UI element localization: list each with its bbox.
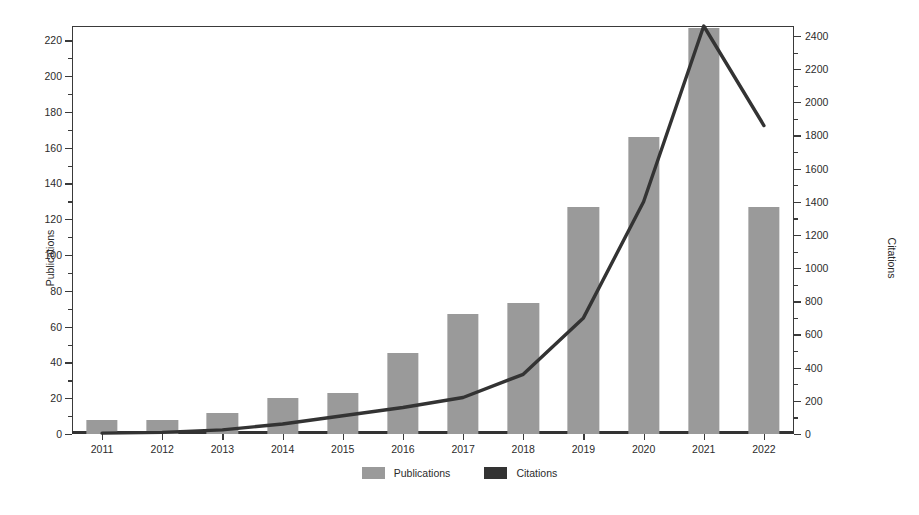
y-tick-label-right: 2400: [805, 31, 828, 42]
y-tick-right: [794, 135, 801, 136]
y-minor-tick-right: [794, 119, 798, 120]
y-tick-label-right: 1400: [805, 197, 828, 208]
y-tick-left: [65, 183, 72, 184]
line-series-citations: [72, 26, 794, 434]
y-tick-left: [65, 219, 72, 220]
bar: [86, 420, 117, 434]
y-tick-left: [65, 291, 72, 292]
x-tick-label: 2015: [331, 443, 354, 455]
y-tick-label-left: 40: [50, 357, 62, 368]
y-minor-tick-right: [794, 185, 798, 186]
y-minor-tick-left: [68, 380, 72, 381]
y-tick-label-left: 140: [44, 178, 62, 189]
x-tick: [222, 434, 223, 440]
y-tick-right: [794, 235, 801, 236]
y-tick-label-left: 20: [50, 393, 62, 404]
y-tick-label-left: 200: [44, 71, 62, 82]
legend-label: Citations: [516, 467, 557, 479]
y-minor-tick-right: [794, 351, 798, 352]
y-tick-label-right: 0: [805, 429, 811, 440]
y-axis-title-right: Citations: [887, 237, 899, 278]
x-tick: [583, 434, 584, 440]
legend-swatch-icon: [362, 467, 385, 479]
y-tick-label-right: 200: [805, 396, 823, 407]
y-minor-tick-right: [794, 86, 798, 87]
x-tick-label: 2018: [512, 443, 535, 455]
legend-entry[interactable]: Citations: [484, 467, 557, 479]
y-tick-right: [794, 202, 801, 203]
y-tick-label-right: 1200: [805, 230, 828, 241]
x-tick-label: 2016: [391, 443, 414, 455]
x-tick: [704, 434, 705, 440]
y-tick-left: [65, 40, 72, 41]
bar: [628, 137, 659, 434]
y-tick-label-left: 0: [56, 429, 62, 440]
y-tick-label-right: 2000: [805, 97, 828, 108]
bar: [447, 314, 478, 434]
legend: PublicationsCitations: [0, 467, 919, 479]
y-minor-tick-left: [68, 345, 72, 346]
y-minor-tick-left: [68, 130, 72, 131]
y-tick-right: [794, 301, 801, 302]
bar: [267, 398, 298, 434]
y-minor-tick-right: [794, 218, 798, 219]
x-tick-label: 2019: [572, 443, 595, 455]
y-tick-right: [794, 69, 801, 70]
y-minor-tick-right: [794, 285, 798, 286]
y-tick-left: [65, 76, 72, 77]
y-tick-label-right: 2200: [805, 64, 828, 75]
x-tick: [523, 434, 524, 440]
x-tick-label: 2021: [692, 443, 715, 455]
y-minor-tick-right: [794, 384, 798, 385]
y-tick-label-right: 1600: [805, 163, 828, 174]
y-tick-label-left: 60: [50, 321, 62, 332]
y-tick-left: [65, 434, 72, 435]
y-minor-tick-right: [794, 252, 798, 253]
y-tick-left: [65, 148, 72, 149]
y-tick-left: [65, 112, 72, 113]
legend-entry[interactable]: Publications: [362, 467, 451, 479]
y-minor-tick-left: [68, 166, 72, 167]
y-tick-label-left: 160: [44, 142, 62, 153]
x-tick: [403, 434, 404, 440]
y-tick-label-right: 1800: [805, 130, 828, 141]
bar: [327, 393, 358, 434]
y-tick-left: [65, 255, 72, 256]
bar: [688, 28, 719, 434]
y-tick-left: [65, 398, 72, 399]
y-minor-tick-right: [794, 417, 798, 418]
bar: [568, 207, 599, 434]
bar: [147, 420, 178, 434]
x-tick: [283, 434, 284, 440]
x-tick-label: 2017: [451, 443, 474, 455]
plot-area: 020406080100120140160180200220 020040060…: [72, 26, 794, 434]
y-tick-label-left: 220: [44, 35, 62, 46]
y-tick-right: [794, 334, 801, 335]
legend-label: Publications: [394, 467, 451, 479]
y-minor-tick-left: [68, 416, 72, 417]
x-tick: [463, 434, 464, 440]
figure-caption: [18, 505, 908, 515]
x-tick: [764, 434, 765, 440]
bar: [508, 303, 539, 434]
y-tick-label-left: 180: [44, 107, 62, 118]
x-tick-label: 2014: [271, 443, 294, 455]
y-tick-label-right: 600: [805, 329, 823, 340]
x-tick: [644, 434, 645, 440]
y-tick-right: [794, 401, 801, 402]
y-tick-right: [794, 368, 801, 369]
y-minor-tick-left: [68, 94, 72, 95]
x-tick-label: 2011: [91, 443, 114, 455]
y-tick-label-right: 400: [805, 362, 823, 373]
y-tick-right: [794, 434, 801, 435]
legend-swatch-icon: [484, 467, 507, 479]
bottom-axis-spine: [72, 431, 794, 434]
y-minor-tick-left: [68, 58, 72, 59]
bar: [748, 207, 779, 434]
x-tick: [162, 434, 163, 440]
x-tick-label: 2012: [151, 443, 174, 455]
top-axis-spine: [72, 26, 794, 27]
y-tick-right: [794, 169, 801, 170]
left-axis-spine: [72, 26, 73, 434]
y-tick-label-left: 120: [44, 214, 62, 225]
